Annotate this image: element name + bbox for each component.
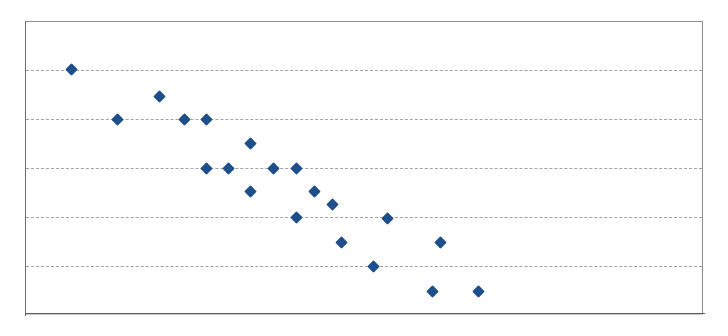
data-points-layer [26,22,702,313]
plot-area [25,21,703,314]
data-point [434,236,447,249]
data-point [267,162,280,175]
data-point [335,236,348,249]
data-point [367,260,380,273]
scatter-chart-figure [0,0,728,336]
gridline-5 [26,266,702,267]
data-point [178,113,191,126]
data-point [222,162,235,175]
data-point [381,212,394,225]
data-point [111,113,124,126]
data-point [244,185,257,198]
data-point [200,113,213,126]
data-point [153,90,166,103]
y-axis-spine [25,21,26,316]
data-point [290,211,303,224]
data-point [244,137,257,150]
data-point [426,285,439,298]
data-point [472,285,485,298]
gridline-1 [26,70,702,71]
data-point [308,185,321,198]
horizontal-gridlines [26,22,702,313]
x-axis-spine [25,313,705,314]
gridline-3 [26,168,702,169]
data-point [65,63,78,76]
data-point [290,162,303,175]
data-point [200,162,213,175]
screenshot-canvas [0,0,728,336]
gridline-2 [26,119,702,120]
data-point [326,198,339,211]
gridline-4 [26,217,702,218]
